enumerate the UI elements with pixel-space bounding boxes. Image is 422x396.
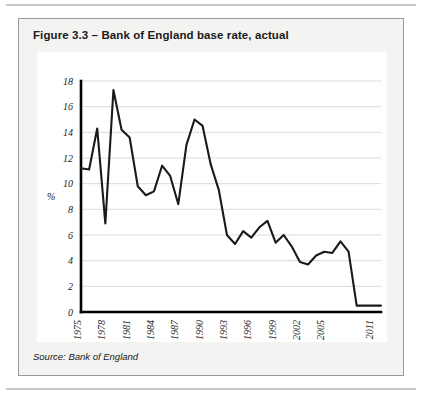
figure-title: Figure 3.3 – Bank of England base rate, … xyxy=(33,29,289,41)
y-axis-title: % xyxy=(47,191,55,202)
x-tick-label: 1978 xyxy=(96,320,107,340)
x-tick-label: 1993 xyxy=(218,320,229,340)
x-tick-label: 1984 xyxy=(145,320,156,340)
x-tick-label: 2011 xyxy=(364,320,375,339)
gridlines-group xyxy=(81,81,381,286)
y-tick-label: 10 xyxy=(63,178,73,189)
line-chart: 024681012141618 197519781981198419871990… xyxy=(37,52,387,342)
y-tick-label: 12 xyxy=(63,153,73,164)
x-tick-label: 1975 xyxy=(72,320,83,340)
x-tick-label: 1996 xyxy=(242,320,253,340)
y-tick-label: 14 xyxy=(63,127,73,138)
chart-plot-area: 024681012141618 197519781981198419871990… xyxy=(37,52,387,342)
y-tick-label: 18 xyxy=(63,76,73,87)
y-tick-label: 2 xyxy=(68,281,73,292)
x-tick-label: 2005 xyxy=(315,320,326,340)
y-tick-label: 4 xyxy=(68,255,73,266)
y-axis-tick-labels: 024681012141618 xyxy=(63,76,73,318)
source-note: Source: Bank of England xyxy=(33,351,138,362)
page-bottom-rule xyxy=(6,388,416,390)
x-tick-label: 1990 xyxy=(194,320,205,340)
x-axis-tick-labels: 1975197819811984198719901993199619992002… xyxy=(72,319,375,340)
figure-container: Figure 3.3 – Bank of England base rate, … xyxy=(18,18,404,376)
y-tick-label: 0 xyxy=(68,307,73,318)
y-tick-label: 6 xyxy=(68,230,73,241)
x-tick-label: 1999 xyxy=(267,320,278,340)
data-series-line xyxy=(81,90,381,306)
x-tick-label: 1981 xyxy=(121,320,132,340)
x-tick-label: 1987 xyxy=(169,319,180,340)
y-tick-label: 8 xyxy=(68,204,73,215)
x-tick-label: 2002 xyxy=(291,320,302,340)
y-tick-label: 16 xyxy=(63,101,73,112)
page-top-rule xyxy=(6,4,416,6)
